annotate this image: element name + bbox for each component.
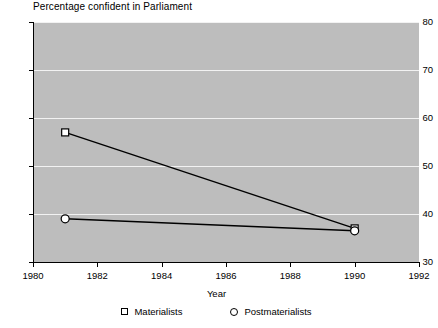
x-tick-label-1986: 1986 [206,270,246,281]
x-tick-label-1980: 1980 [13,270,53,281]
legend-label: Materialists [134,306,182,317]
series-layer [33,22,419,262]
x-tick-mark-1988 [290,263,291,267]
square-marker-icon [121,308,128,315]
series-line-postmaterialists [65,219,355,231]
x-tick-label-1992: 1992 [399,270,438,281]
legend-item-postmaterialists: Postmaterialists [230,306,311,317]
x-tick-label-1984: 1984 [142,270,182,281]
circle-marker-icon [230,308,238,316]
x-tick-mark-1984 [162,263,163,267]
x-tick-mark-1986 [226,263,227,267]
x-tick-label-1982: 1982 [77,270,117,281]
legend-label: Postmaterialists [244,306,311,317]
x-tick-mark-1992 [419,263,420,267]
data-point-postmaterialists-1981 [61,215,69,223]
chart-legend: MaterialistsPostmaterialists [0,306,433,317]
x-tick-mark-1980 [33,263,34,267]
x-axis-title: Year [0,288,433,299]
legend-item-materialists: Materialists [121,306,182,317]
x-tick-mark-1990 [355,263,356,267]
data-point-postmaterialists-1990 [351,227,359,235]
chart-title: Percentage confident in Parliament [33,1,192,13]
x-tick-label-1990: 1990 [335,270,375,281]
series-line-materialists [65,132,355,228]
x-tick-mark-1982 [97,263,98,267]
x-tick-label-1988: 1988 [270,270,310,281]
data-point-materialists-1981 [62,129,69,136]
